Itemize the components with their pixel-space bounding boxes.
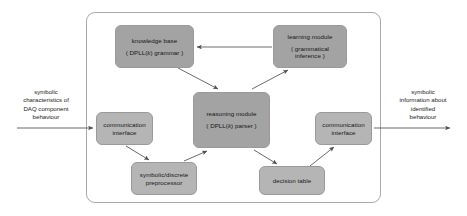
node-comm-right-line2: interface <box>331 129 355 137</box>
subtitle-suffix: ) parser ) <box>231 122 257 129</box>
edge-preprocessor-to-reasoning <box>184 151 207 161</box>
node-preprocessor-line1: symbolic/discrete <box>140 171 188 179</box>
input-label-line4: behaviour <box>7 113 85 121</box>
node-decision-table: decision table <box>259 166 325 195</box>
edge-comm-left-to-preprocessor <box>126 146 149 160</box>
block-diagram: knowledge base ( DPLL(k) grammar ) learn… <box>0 0 467 216</box>
edge-knowledge-to-reasoning <box>178 68 218 89</box>
edge-reasoning-to-learning <box>252 70 288 89</box>
subtitle-prefix: ( DPLL( <box>206 122 228 129</box>
node-comm-right-line1: communication <box>322 121 364 129</box>
node-comm-left-line1: communication <box>103 121 145 129</box>
edge-decision-to-comm-right <box>310 147 334 166</box>
node-symbolic-discrete-preprocessor: symbolic/discrete preprocessor <box>131 162 197 195</box>
node-knowledge-base-subtitle: ( DPLL(k) grammar ) <box>126 49 184 57</box>
input-label: symbolic characteristics of DAQ componen… <box>7 88 85 122</box>
node-communication-interface-right: communication interface <box>315 112 372 145</box>
subtitle-prefix: ( DPLL( <box>126 49 148 56</box>
node-preprocessor-line2: preprocessor <box>146 179 183 187</box>
node-reasoning-module-title: reasoning module <box>207 110 257 118</box>
output-label: symbolic information about identified be… <box>382 88 464 122</box>
node-learning-module-subtitle-line2: inference ) <box>295 52 325 60</box>
node-learning-module-subtitle-line1: ( grammatical <box>291 45 329 53</box>
node-reasoning-module: reasoning module ( DPLL(k) parser ) <box>193 92 270 148</box>
output-label-line2: information about <box>382 96 464 104</box>
node-knowledge-base: knowledge base ( DPLL(k) grammar ) <box>115 25 194 68</box>
edge-reasoning-to-decision <box>254 150 277 164</box>
input-label-line2: characteristics of <box>7 96 85 104</box>
node-knowledge-base-title: knowledge base <box>132 37 177 45</box>
input-label-line3: DAQ component <box>7 105 85 113</box>
output-label-line4: behaviour <box>382 113 464 121</box>
node-learning-module-title: learning module <box>288 33 333 41</box>
node-learning-module: learning module ( grammatical inference … <box>273 25 347 68</box>
input-label-line1: symbolic <box>7 88 85 96</box>
node-reasoning-module-subtitle: ( DPLL(k) parser ) <box>206 122 256 130</box>
node-comm-left-line2: interface <box>112 129 136 137</box>
output-label-line3: identified <box>382 105 464 113</box>
output-label-line1: symbolic <box>382 88 464 96</box>
node-communication-interface-left: communication interface <box>96 112 153 145</box>
subtitle-suffix: ) grammar ) <box>150 49 183 56</box>
node-decision-table-title: decision table <box>273 177 312 185</box>
